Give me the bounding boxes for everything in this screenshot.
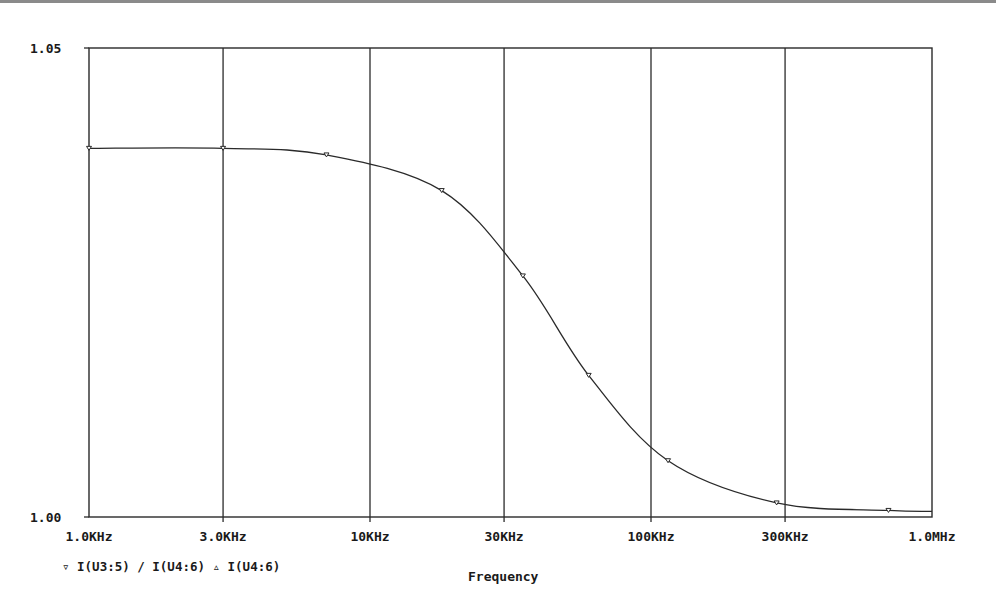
x-tick-label: 300KHz — [762, 529, 809, 544]
y-axis-top-label: 1.05 — [30, 41, 61, 56]
data-series-line — [89, 148, 932, 512]
data-point-marker-icon — [221, 146, 226, 150]
x-tick-label: 30KHz — [485, 529, 524, 544]
plot-grid — [84, 48, 932, 522]
chart-plot: 1.0KHz3.0KHz10KHz30KHz100KHz300KHz1.0MHz… — [0, 0, 996, 609]
data-point-marker-icon — [324, 153, 329, 157]
data-markers — [87, 146, 891, 512]
x-tick-label: 1.0MHz — [909, 529, 956, 544]
x-tick-label: 10KHz — [350, 529, 389, 544]
x-tick-label: 100KHz — [628, 529, 675, 544]
x-axis-tick-labels: 1.0KHz3.0KHz10KHz30KHz100KHz300KHz1.0MHz — [66, 529, 956, 544]
x-tick-label: 1.0KHz — [66, 529, 113, 544]
data-point-marker-icon — [886, 508, 891, 512]
data-point-marker-icon — [87, 146, 92, 150]
y-axis-bottom-label: 1.00 — [30, 510, 61, 525]
x-axis-title: Frequency — [468, 569, 538, 584]
legend: ▿ I(U3:5) / I(U4:6) ▵ I(U4:6) — [62, 559, 280, 574]
data-point-marker-icon — [774, 501, 779, 505]
x-tick-label: 3.0KHz — [200, 529, 247, 544]
